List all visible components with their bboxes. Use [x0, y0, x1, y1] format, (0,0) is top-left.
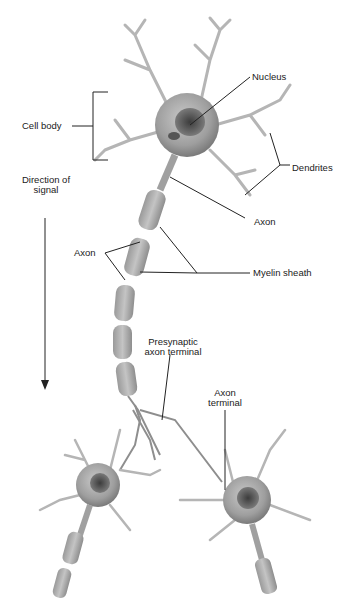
label-dendrites: Dendrites [292, 163, 333, 173]
nucleus-shape [175, 108, 205, 136]
label-direction-of-signal: Direction of signal [16, 175, 76, 195]
direction-line2: signal [16, 185, 76, 195]
myelin-segments [113, 188, 168, 397]
label-axon-terminal: Axon terminal [202, 388, 248, 408]
label-axon-upper: Axon [254, 217, 276, 227]
label-myelin-sheath: Myelin sheath [253, 268, 312, 278]
label-presynaptic-axon-terminal: Presynaptic axon terminal [140, 337, 206, 357]
axon-terminal-line2: terminal [202, 398, 248, 408]
label-nucleus: Nucleus [252, 72, 286, 82]
neuron-diagram [0, 0, 356, 615]
label-axon-left: Axon [74, 248, 96, 258]
presynaptic-line2: axon terminal [140, 347, 206, 357]
direction-arrow-head [41, 380, 49, 390]
label-cell-body: Cell body [22, 121, 62, 131]
